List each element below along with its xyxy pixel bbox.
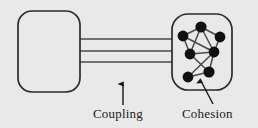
node-mid-left xyxy=(185,49,196,60)
node-bottom-mid xyxy=(203,66,214,77)
node-upper-left xyxy=(178,31,189,42)
node-upper-right xyxy=(215,32,226,43)
node-bottom-left xyxy=(183,72,194,83)
coupling-connector-lines xyxy=(80,39,173,62)
node-top xyxy=(195,21,206,32)
left-module xyxy=(18,11,80,92)
cohesion-label: Cohesion xyxy=(182,106,233,122)
coupling-label: Coupling xyxy=(93,106,143,122)
node-mid-right xyxy=(209,47,220,58)
diagram-canvas: Coupling Cohesion xyxy=(0,0,258,128)
